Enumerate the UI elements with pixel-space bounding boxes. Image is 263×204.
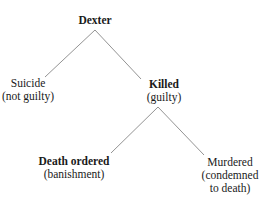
node-sublabel-2: to death) bbox=[200, 182, 260, 195]
node-suicide: Suicide (not guilty) bbox=[0, 77, 56, 103]
edge-root-suicide bbox=[45, 30, 95, 77]
node-label: Murdered bbox=[200, 156, 260, 169]
node-dexter: Dexter bbox=[77, 14, 113, 27]
node-label: Dexter bbox=[77, 14, 113, 27]
node-murdered: Murdered (condemned to death) bbox=[200, 156, 260, 195]
node-sublabel: (guilty) bbox=[141, 91, 187, 104]
node-label: Suicide bbox=[0, 77, 56, 90]
node-sublabel: (condemned bbox=[200, 169, 260, 182]
edge-root-killed bbox=[95, 30, 141, 79]
edge-killed-murdered bbox=[158, 107, 204, 155]
node-sublabel: (not guilty) bbox=[0, 90, 56, 103]
node-killed: Killed (guilty) bbox=[141, 78, 187, 104]
node-label: Killed bbox=[141, 78, 187, 91]
node-death-ordered: Death ordered (banishment) bbox=[36, 155, 112, 181]
node-sublabel: (banishment) bbox=[36, 168, 112, 181]
edge-killed-death bbox=[111, 107, 158, 153]
node-label: Death ordered bbox=[36, 155, 112, 168]
